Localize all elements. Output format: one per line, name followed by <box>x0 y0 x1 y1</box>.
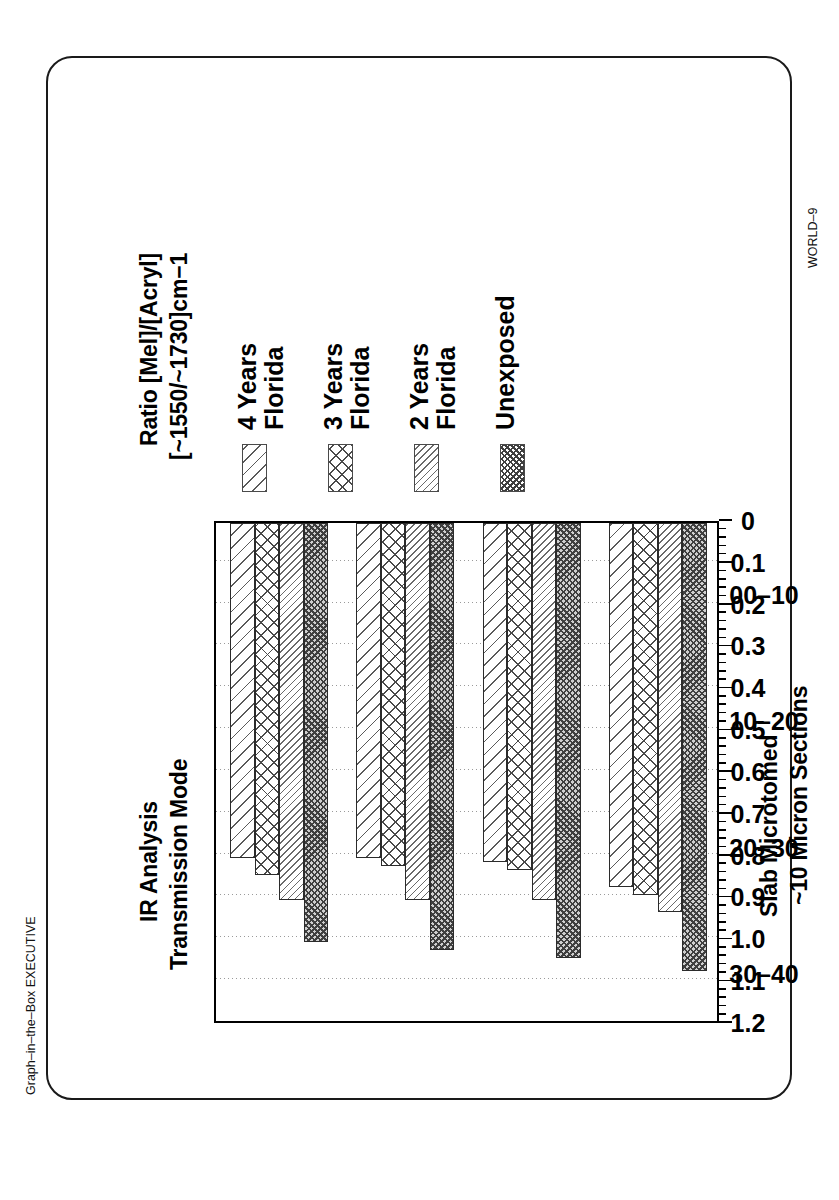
axis-tick-label: 0.1 <box>730 549 765 578</box>
axis-tick-minor <box>719 620 726 622</box>
axis-tick-label: 1.2 <box>730 1009 765 1038</box>
legend-label: 2 YearsFlorida <box>406 343 460 430</box>
axis-tick-label: 0.6 <box>730 758 765 787</box>
bar <box>380 523 405 866</box>
legend-item: 2 YearsFlorida <box>408 192 472 492</box>
axis-tick-minor <box>719 695 726 697</box>
axis-tick-minor <box>719 595 726 597</box>
axis-tick-minor <box>719 536 726 538</box>
axis-tick-minor <box>719 954 726 956</box>
axis-tick-minor <box>719 779 726 781</box>
axis-tick-minor <box>719 703 726 705</box>
value-axis-label-line2: [~1550/~1730]cm−1 <box>166 253 193 460</box>
axis-tick-minor <box>719 821 726 823</box>
axis-tick-minor <box>719 996 726 998</box>
axis-tick-major <box>719 812 732 814</box>
category-label: 20–30 <box>729 834 799 863</box>
axis-tick-minor <box>719 862 726 864</box>
chart-title-line2: Transmission Mode <box>166 759 193 970</box>
bar <box>405 523 430 900</box>
axis-tick-major <box>719 687 732 689</box>
footnote-right: WORLD–9 <box>806 208 820 268</box>
axis-tick-minor <box>719 545 726 547</box>
axis-tick-major <box>719 561 732 563</box>
axis-tick-minor <box>719 837 726 839</box>
axis-tick-minor <box>719 637 726 639</box>
bar <box>356 523 381 858</box>
legend-label: 4 YearsFlorida <box>234 343 288 430</box>
axis-tick-minor <box>719 888 726 890</box>
bar <box>556 523 581 958</box>
axis-tick-minor <box>719 628 726 630</box>
bar <box>482 523 507 862</box>
axis-tick-minor <box>719 963 726 965</box>
footnote-left: Graph–in–the–Box EXECUTIVE <box>24 916 38 1095</box>
axis-tick-major <box>719 938 732 940</box>
axis-tick-major <box>719 770 732 772</box>
gridline <box>216 978 717 979</box>
bar <box>531 523 556 900</box>
bar <box>682 523 707 971</box>
category-label: 30–40 <box>729 960 799 989</box>
axis-tick-minor <box>719 678 726 680</box>
axis-tick-minor <box>719 988 726 990</box>
axis-tick-label: 1.0 <box>730 925 765 954</box>
axis-tick-minor <box>719 662 726 664</box>
axis-tick-minor <box>719 787 726 789</box>
legend-swatch <box>414 444 439 492</box>
chart-legend: 4 YearsFlorida3 YearsFlorida2 YearsFlori… <box>236 192 706 492</box>
axis-tick-major <box>719 896 732 898</box>
bar <box>230 523 255 858</box>
axis-tick-minor <box>719 879 726 881</box>
legend-swatch <box>328 444 353 492</box>
axis-tick-major <box>719 1021 732 1023</box>
axis-tick-label: 0.9 <box>730 884 765 913</box>
bar <box>279 523 304 900</box>
bar <box>608 523 633 887</box>
legend-swatch <box>242 444 267 492</box>
axis-tick-minor <box>719 720 726 722</box>
axis-tick-minor <box>719 1013 726 1015</box>
axis-tick-label: 0 <box>741 507 755 536</box>
axis-tick-minor <box>719 745 726 747</box>
legend-item: 3 YearsFlorida <box>322 192 386 492</box>
axis-tick-minor <box>719 804 726 806</box>
axis-tick-minor <box>719 913 726 915</box>
bar <box>657 523 682 912</box>
bar <box>507 523 532 870</box>
axis-tick-minor <box>719 829 726 831</box>
axis-tick-major <box>719 519 732 521</box>
axis-tick-minor <box>719 971 726 973</box>
axis-tick-minor <box>719 846 726 848</box>
axis-tick-minor <box>719 712 726 714</box>
axis-tick-minor <box>719 762 726 764</box>
axis-tick-minor <box>719 929 726 931</box>
rotated-chart-stage: IR Analysis Transmission Mode Ratio [Mel… <box>118 156 818 1160</box>
axis-tick-minor <box>719 737 726 739</box>
chart-card: IR Analysis Transmission Mode Ratio [Mel… <box>46 56 792 1100</box>
axis-tick-label: 0.3 <box>730 633 765 662</box>
axis-tick-label: 0.4 <box>730 674 765 703</box>
chart-title-line1: IR Analysis <box>136 801 163 922</box>
axis-tick-minor <box>719 528 726 530</box>
legend-label: Unexposed <box>492 295 519 430</box>
axis-tick-minor <box>719 754 726 756</box>
axis-tick-minor <box>719 871 726 873</box>
axis-tick-minor <box>719 921 726 923</box>
axis-tick-minor <box>719 1005 726 1007</box>
value-axis-label-line1: Ratio [Mel]/[Acryl] <box>136 253 163 446</box>
axis-tick-minor <box>719 904 726 906</box>
axis-tick-label: 0.7 <box>730 800 765 829</box>
axis-tick-minor <box>719 586 726 588</box>
bar <box>254 523 279 875</box>
axis-tick-minor <box>719 578 726 580</box>
axis-tick-minor <box>719 796 726 798</box>
axis-tick-minor <box>719 670 726 672</box>
axis-tick-minor <box>719 553 726 555</box>
gridline <box>216 936 717 937</box>
bar <box>303 523 328 942</box>
bar <box>429 523 454 950</box>
legend-item: Unexposed <box>494 192 558 492</box>
axis-tick-major <box>719 645 732 647</box>
bar <box>633 523 658 896</box>
